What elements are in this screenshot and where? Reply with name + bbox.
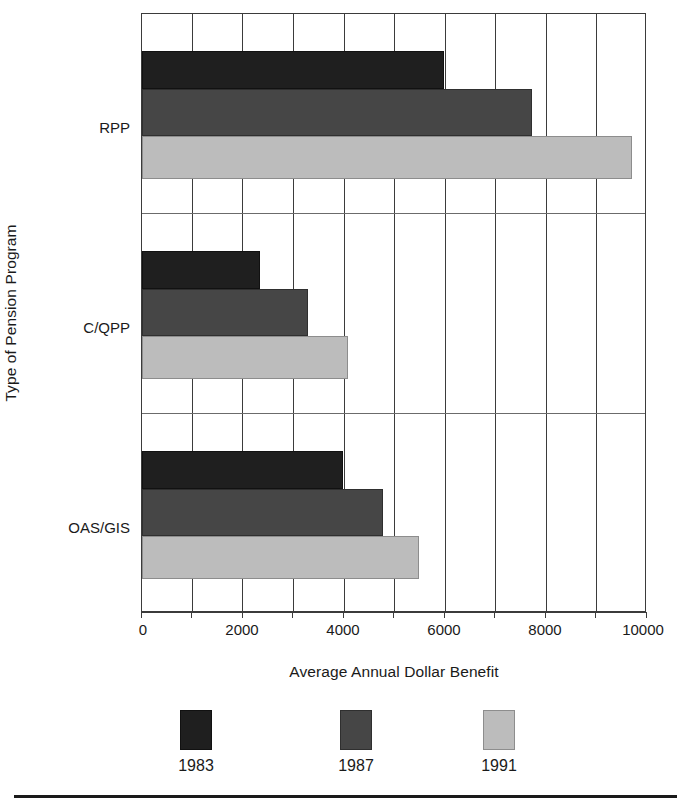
- y-tick-label-rpp: RPP: [99, 119, 130, 137]
- x-tick-7000: [494, 612, 495, 618]
- x-tick-8000: [545, 612, 546, 618]
- legend-swatch-1987-icon: [340, 710, 372, 750]
- x-tick-label-2000: 2000: [225, 621, 258, 638]
- y-axis-title-text: Type of Pension Program: [2, 224, 20, 401]
- x-tick-5000: [393, 612, 394, 618]
- x-tick-1000: [191, 612, 192, 618]
- chart-legend: 1983 1987 1991: [141, 710, 647, 788]
- x-tick-2000: [242, 612, 243, 618]
- bar-oasgis-1991: [142, 536, 419, 579]
- bar-oasgis-1983: [142, 451, 343, 489]
- legend-item-1991: 1991: [444, 710, 554, 776]
- y-axis-title: Type of Pension Program: [0, 13, 22, 612]
- legend-label-1991: 1991: [444, 756, 554, 776]
- bar-rpp-1987: [142, 89, 532, 136]
- x-axis-title: Average Annual Dollar Benefit: [141, 663, 647, 681]
- legend-label-1987: 1987: [301, 756, 411, 776]
- bar-cqpp-1987: [142, 289, 308, 336]
- x-tick-10000: [646, 612, 647, 618]
- bar-oasgis-1987: [142, 489, 383, 536]
- y-tick-label-oasgis: OAS/GIS: [68, 519, 130, 537]
- x-tick-label-4000: 4000: [326, 621, 359, 638]
- x-axis-line: [141, 612, 647, 613]
- gridline-9000: [596, 14, 597, 611]
- category-separator-1: [142, 213, 645, 214]
- bar-rpp-1991: [142, 136, 632, 179]
- legend-item-1983: 1983: [141, 710, 251, 776]
- x-tick-label-8000: 8000: [528, 621, 561, 638]
- x-tick-label-0: 0: [139, 621, 147, 638]
- y-tick-label-cqpp: C/QPP: [83, 319, 130, 337]
- x-tick-4000: [343, 612, 344, 618]
- bar-rpp-1983: [142, 51, 444, 89]
- x-tick-label-10000: 10000: [622, 621, 664, 638]
- x-tick-9000: [595, 612, 596, 618]
- bar-cqpp-1983: [142, 251, 260, 289]
- legend-swatch-1991-icon: [483, 710, 515, 750]
- plot-area: [141, 13, 646, 612]
- x-tick-label-6000: 6000: [427, 621, 460, 638]
- bar-cqpp-1991: [142, 336, 348, 379]
- gridline-8000: [546, 14, 547, 611]
- y-axis-tick-labels: RPP C/QPP OAS/GIS: [24, 13, 137, 612]
- legend-label-1983: 1983: [141, 756, 251, 776]
- legend-swatch-1983-icon: [180, 710, 212, 750]
- x-tick-3000: [292, 612, 293, 618]
- legend-item-1987: 1987: [301, 710, 411, 776]
- bar-chart-figure: Type of Pension Program RPP C/QPP OAS/GI…: [0, 0, 689, 807]
- x-tick-6000: [444, 612, 445, 618]
- bottom-divider: [14, 795, 677, 798]
- category-separator-2: [142, 413, 645, 414]
- x-tick-0: [141, 612, 142, 618]
